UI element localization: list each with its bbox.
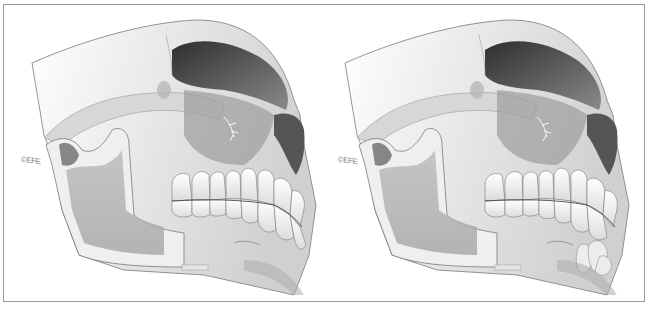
figure-frame: ©EFE (3, 4, 645, 302)
skull-panel-left: ©EFE (4, 5, 325, 301)
skull-illustration-right (325, 5, 646, 301)
skull-illustration-left (4, 5, 325, 301)
skull-panel-right: ©EFE (325, 5, 646, 301)
